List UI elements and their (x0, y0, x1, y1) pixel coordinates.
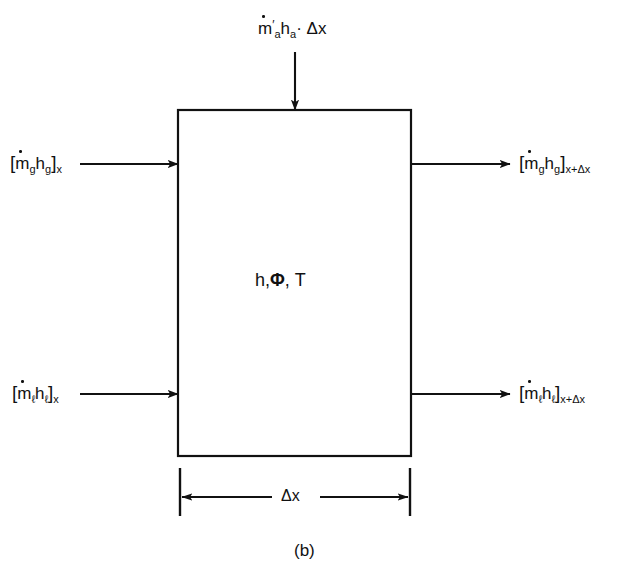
figure-caption: (b) (294, 541, 315, 561)
interior-state-label: h,Φ, T (255, 270, 306, 291)
delta-x-dimension-label: Δx (281, 487, 300, 505)
liquid-outflow-label: [mℓhℓ]x+Δx (519, 383, 585, 402)
m-dot-air: m (258, 20, 272, 37)
diagram-vector-layer (0, 0, 624, 584)
m-dot-gas-in: m (15, 155, 29, 172)
m-dot-gas-out: m (524, 155, 538, 172)
figure-canvas: m′aha· Δx [mghg]x [mghg]x+Δx [mℓhℓ]x [mℓ… (0, 0, 624, 584)
air-enthalpy-inlet-label: m′aha· Δx (258, 20, 326, 37)
m-dot-liquid-out: m (524, 385, 538, 402)
m-dot-liquid-in: m (17, 385, 31, 402)
liquid-inflow-label: [mℓhℓ]x (12, 383, 59, 402)
gas-outflow-label: [mghg]x+Δx (519, 153, 590, 172)
gas-inflow-label: [mghg]x (10, 153, 62, 172)
